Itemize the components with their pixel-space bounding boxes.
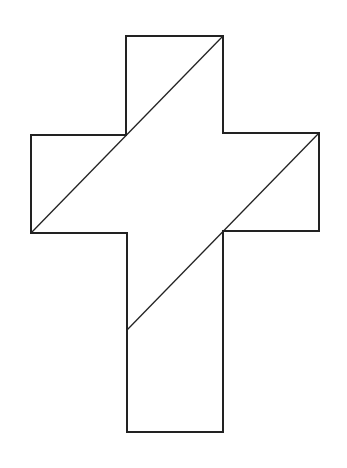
cross-outline <box>31 36 319 432</box>
cross-diagram <box>0 0 347 468</box>
